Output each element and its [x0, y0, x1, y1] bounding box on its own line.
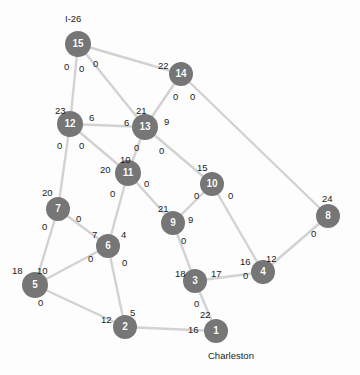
- edge-weight-label: 22: [158, 61, 169, 71]
- edge-weight-label: 0: [190, 92, 195, 102]
- graph-node-8[interactable]: 8: [316, 204, 340, 228]
- edge-weight-label: 4: [121, 230, 126, 240]
- edge-weight-label: 17: [211, 269, 222, 279]
- edge-weight-label: 0: [181, 236, 186, 246]
- edge-weight-label: 21: [158, 204, 169, 214]
- edge-weight-label: 0: [110, 189, 115, 199]
- edge-weight-label: 15: [197, 163, 208, 173]
- edge-weight-label: 23: [55, 106, 66, 116]
- edge-weight-label: 6: [124, 118, 129, 128]
- graph-node-label: 5: [32, 280, 38, 290]
- edge-weight-label: 6: [89, 113, 94, 123]
- graph-node-label: 12: [64, 119, 75, 129]
- edge-weight-label: 0: [64, 62, 69, 72]
- edge-weight-label: 0: [173, 92, 178, 102]
- place-label: Charleston: [208, 351, 254, 361]
- edge-weight-label: 0: [159, 146, 164, 156]
- place-label: I-26: [65, 14, 81, 24]
- graph-node-label: 9: [170, 218, 176, 228]
- graph-node-label: 7: [55, 204, 61, 214]
- edge-weight-label: 0: [76, 214, 81, 224]
- graph-node-label: 2: [122, 322, 128, 332]
- edge-weight-label: 10: [120, 155, 131, 165]
- edge-weight-label: 9: [188, 215, 193, 225]
- graph-node-label: 13: [139, 122, 150, 132]
- edge-weight-label: 0: [243, 271, 248, 281]
- graph-node-label: 11: [123, 168, 134, 178]
- edge-weight-label: 5: [130, 308, 135, 318]
- edge-weight-label: 18: [12, 266, 23, 276]
- edge-weight-label: 18: [175, 269, 186, 279]
- graph-edge: [212, 184, 263, 272]
- edge-weight-label: 16: [240, 257, 251, 267]
- graph-node-9[interactable]: 9: [161, 211, 185, 235]
- graph-node-10[interactable]: 10: [200, 172, 224, 196]
- edge-weight-label: 12: [266, 254, 277, 264]
- edge-weight-label: 9: [164, 117, 169, 127]
- edge-weight-label: 20: [42, 188, 53, 198]
- edge-weight-label: 0: [79, 64, 84, 74]
- edge-weight-label: 0: [42, 222, 47, 232]
- edge-weight-label: 0: [194, 299, 199, 309]
- graph-node-label: 4: [260, 267, 266, 277]
- edge-weight-label: 12: [101, 315, 112, 325]
- edge-weight-label: 21: [136, 106, 147, 116]
- graph-node-7[interactable]: 7: [46, 197, 70, 221]
- edge-weight-label: 0: [311, 229, 316, 239]
- graph-node-label: 10: [206, 179, 217, 189]
- edge-weight-label: 10: [37, 266, 48, 276]
- edge-weight-label: 0: [134, 143, 139, 153]
- graph-node-label: 1: [213, 326, 219, 336]
- graph-node-3[interactable]: 3: [183, 269, 207, 293]
- edge-weight-label: 0: [144, 179, 149, 189]
- graph-node-label: 15: [72, 39, 83, 49]
- edge-weight-label: 0: [228, 191, 233, 201]
- network-graph: 123456789101112131415 000220023600216900…: [0, 0, 360, 375]
- graph-edge: [181, 74, 328, 216]
- graph-node-15[interactable]: 15: [65, 31, 91, 57]
- edge-weight-label: 7: [92, 230, 97, 240]
- edge-weight-label: 16: [188, 325, 199, 335]
- graph-node-label: 3: [192, 276, 198, 286]
- edge-weight-label: 20: [100, 165, 111, 175]
- graph-node-14[interactable]: 14: [169, 62, 193, 86]
- edge-weight-label: 0: [79, 141, 84, 151]
- graph-node-13[interactable]: 13: [132, 114, 158, 140]
- graph-node-6[interactable]: 6: [96, 234, 120, 258]
- edge-weight-label: 0: [194, 191, 199, 201]
- edge-weight-label: 0: [57, 141, 62, 151]
- edge-weight-label: 24: [322, 194, 333, 204]
- edge-weight-label: 0: [88, 254, 93, 264]
- edge-weight-label: 0: [38, 298, 43, 308]
- edge-weight-label: 22: [200, 310, 211, 320]
- graph-node-2[interactable]: 2: [113, 315, 137, 339]
- graph-node-label: 14: [175, 69, 186, 79]
- edge-weight-label: 0: [93, 59, 98, 69]
- graph-edge: [125, 327, 216, 331]
- graph-node-label: 6: [105, 241, 111, 251]
- graph-node-label: 8: [325, 211, 331, 221]
- edge-layer: [0, 0, 360, 375]
- edge-weight-label: 0: [122, 258, 127, 268]
- graph-node-1[interactable]: 1: [204, 319, 228, 343]
